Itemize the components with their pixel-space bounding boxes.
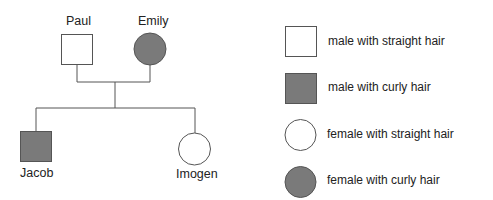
imogen-symbol-circle [179,133,211,165]
pedigree-lines [36,64,195,133]
marriage-line [77,64,150,82]
legend-label-female-straight: female with straight hair [327,127,454,141]
emily-symbol-circle [134,33,166,65]
legend-square-shaded-icon [286,74,317,104]
legend-label-male-straight: male with straight hair [328,34,445,48]
legend-circle-white-icon [285,120,316,151]
jacob-symbol-square [21,132,52,162]
pedigree-diagram: Paul Emily Jacob Imogen male with straig… [0,0,493,200]
person-label-emily: Emily [138,14,169,28]
legend-circle-shaded-icon [285,167,316,198]
person-label-jacob: Jacob [20,166,53,180]
person-label-imogen: Imogen [176,167,218,181]
sibship-line [36,108,195,133]
legend-label-male-curly: male with curly hair [328,80,431,94]
paul-symbol-square [62,35,93,65]
pedigree-graphics [0,0,493,200]
legend-label-female-curly: female with curly hair [327,173,440,187]
legend-square-white-icon [286,27,317,57]
person-label-paul: Paul [66,14,91,28]
